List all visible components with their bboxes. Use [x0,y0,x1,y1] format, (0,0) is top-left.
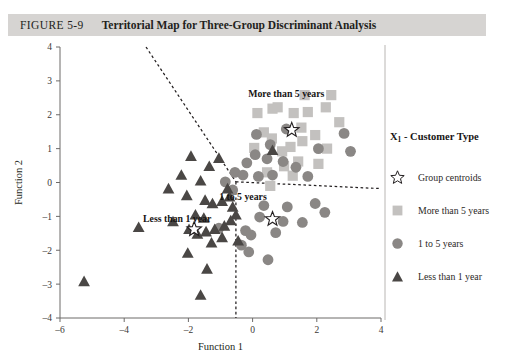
annotation-more-than-5-years: More than 5 years [248,88,324,99]
data-point [182,247,194,258]
legend-panel: X1 - Customer Type Group centroids More … [390,0,510,322]
y-tick-label: –4 [42,313,53,323]
data-point [265,211,279,225]
data-point [203,160,215,171]
data-point [303,107,313,117]
legend-label-more-than-5-years: More than 5 years [418,205,489,216]
annotation-1-to-5-years: 1 to 5 years [219,191,267,202]
data-point [326,90,336,100]
data-point [289,108,299,118]
data-point [185,150,197,161]
data-point [263,254,274,265]
data-point [201,263,213,274]
data-point [254,212,265,223]
legend-label-1-to-5-years: 1 to 5 years [418,238,463,249]
data-point [310,198,321,209]
y-tick-label: 4 [47,42,52,52]
annotation-less-than-1-year: Less than 1 year [143,213,212,224]
y-tick-label: 3 [47,76,52,86]
data-point [265,181,275,191]
data-point [313,143,324,154]
figure-number: FIGURE 5-9 [20,19,84,31]
data-point [195,289,207,300]
circle-marker-icon [390,236,405,251]
data-point [270,227,281,238]
data-point [243,247,254,258]
data-point [78,276,90,287]
y-tick-label: 0 [47,178,52,188]
data-point [321,102,331,112]
legend-label-group-centroids: Group centroids [418,172,481,183]
data-point [297,136,307,146]
data-point [163,183,175,194]
x-tick-label: –4 [118,325,129,335]
y-tick-label: –2 [42,246,53,256]
y-tick-label: 2 [47,110,52,120]
data-point [206,237,218,248]
data-point [199,194,211,205]
data-point [227,201,239,212]
legend-title-suffix: - Customer Type [401,131,478,142]
data-point [273,102,283,112]
figure-root: FIGURE 5-9 Territorial Map for Three-Gro… [0,0,510,358]
data-point [200,226,212,237]
legend-item-less-than-1-year[interactable]: Less than 1 year [390,267,482,285]
data-point [319,207,330,218]
y-tick-label: –1 [42,212,53,222]
x-tick-label: –6 [54,325,65,335]
y-axis-title: Function 2 [13,160,24,205]
data-point [310,130,320,140]
data-point [238,170,249,181]
data-point [195,175,207,186]
data-point [246,230,257,241]
x-tick-label: 2 [314,325,319,335]
data-point [181,190,193,201]
legend-item-1-to-5-years[interactable]: 1 to 5 years [390,234,463,252]
data-point [339,128,350,139]
square-marker-icon [390,203,405,218]
legend-label-less-than-1-year: Less than 1 year [418,271,482,282]
data-point [252,108,262,118]
x-tick-label: 0 [250,325,255,335]
x-axis-title: Function 1 [198,341,243,352]
legend-item-more-than-5-years[interactable]: More than 5 years [390,201,489,219]
data-point [334,117,344,127]
data-point [313,159,323,169]
data-point [267,170,278,181]
data-point [302,171,313,182]
data-point [278,156,289,167]
data-point [250,149,261,160]
data-point [297,217,308,228]
data-point [291,162,302,173]
right-boundary [236,182,381,189]
data-point [251,129,262,140]
legend-item-group-centroids[interactable]: Group centroids [390,168,481,186]
figure-title: Territorial Map for Three-Group Discrimi… [102,19,376,31]
triangle-marker-icon [390,269,405,284]
data-point [277,146,287,156]
data-point [175,169,187,180]
x-tick-label: 4 [379,325,384,335]
data-point [213,152,225,163]
legend-title-variable: X [390,131,398,142]
data-point [345,146,356,157]
star-outline-icon [390,170,405,185]
data-point [253,171,264,182]
x-tick-label: –2 [183,325,194,335]
data-point [241,157,252,168]
legend-title: X1 - Customer Type [390,131,479,144]
data-point [282,201,293,212]
y-tick-label: 1 [47,144,52,154]
y-tick-label: –3 [42,280,53,290]
